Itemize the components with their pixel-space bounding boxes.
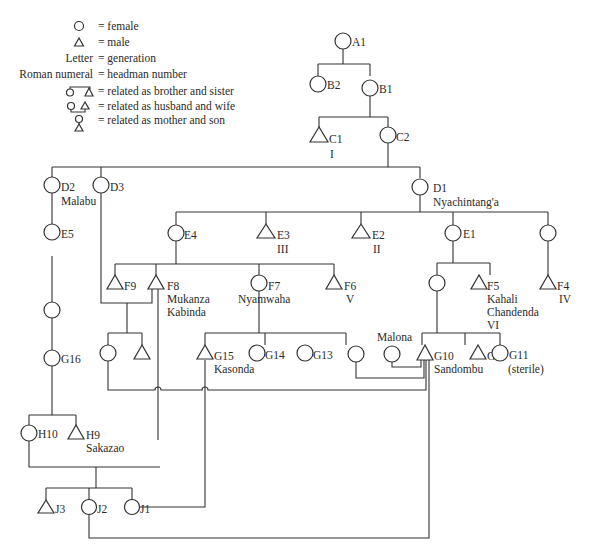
name2-f5: Chandenda — [487, 306, 539, 318]
label-e4: E4 — [184, 229, 197, 241]
person-unnamed-g-female-icon — [100, 345, 116, 361]
label-g11: G11 — [509, 349, 529, 361]
label-f8: F8 — [167, 280, 179, 292]
label-b1: B1 — [379, 83, 393, 95]
person-d1-female-icon — [412, 179, 428, 195]
person-f7-female-icon — [251, 275, 267, 291]
label-f5: F5 — [487, 280, 499, 292]
person-e3-male-icon — [257, 224, 275, 238]
person-f5-male-icon — [471, 275, 487, 289]
person-j1-female-icon — [125, 500, 140, 515]
headman-e2: II — [373, 243, 381, 255]
label-e2: E2 — [372, 229, 385, 241]
person-b1-female-icon — [362, 80, 378, 96]
person-unnamed-f-female-icon — [44, 302, 60, 318]
headman-f5: VI — [487, 319, 499, 331]
name2-f8: Kabinda — [167, 306, 206, 318]
name1-f8: Mukanza — [167, 293, 210, 305]
person-f4-male-icon — [540, 275, 556, 289]
person-a1-female-icon — [335, 33, 351, 49]
person-e2-male-icon — [352, 224, 370, 238]
person-g10-male-icon — [417, 345, 433, 360]
person-g15-male-icon — [197, 345, 213, 359]
label-f4: F4 — [557, 280, 569, 292]
name-g10: Sandombu — [434, 363, 483, 375]
label-f7: F7 — [268, 280, 280, 292]
person-j3-male-icon — [38, 500, 54, 513]
person-e4-female-icon — [168, 225, 184, 241]
person-g13-female-icon — [297, 345, 313, 361]
legend-sibling-text: = related as brother and sister — [98, 85, 234, 97]
person-d2-female-icon — [44, 177, 60, 193]
person-unnamed-g-male-icon — [134, 345, 150, 359]
headman-f4: IV — [559, 293, 572, 305]
legend-spouse-icon — [68, 102, 90, 112]
legend-spouse-text: = related as husband and wife — [98, 100, 235, 112]
label-g13: G13 — [313, 349, 333, 361]
legend-female-icon — [75, 22, 84, 31]
legend-female-text: = female — [98, 20, 139, 32]
headman-c1: I — [330, 148, 334, 160]
person-c1-male-icon — [310, 127, 328, 142]
label-g10: G10 — [434, 350, 454, 362]
person-e5-female-icon — [44, 224, 60, 240]
name-f7: Nyamwaha — [238, 293, 290, 306]
label-d3: D3 — [110, 181, 124, 193]
person-unnamed-f-e1-female-icon — [429, 275, 445, 291]
label-c1: C1 — [329, 133, 343, 145]
person-g11-female-icon — [492, 345, 508, 361]
label-f9: F9 — [124, 280, 136, 292]
person-h9-male-icon — [68, 425, 84, 439]
label-j3: J3 — [55, 503, 65, 515]
name-malona: Malona — [377, 331, 412, 343]
name-d2: Malabu — [61, 195, 96, 207]
person-unnamed-wife-female-icon — [348, 346, 364, 362]
person-b2-female-icon — [310, 76, 326, 92]
legend-sibling-icon — [67, 87, 94, 96]
legend-letter-key: Letter — [66, 52, 94, 64]
person-g14-female-icon — [249, 345, 265, 361]
name1-f5: Kahali — [487, 293, 518, 305]
person-e1-female-icon — [445, 225, 461, 241]
label-h10: H10 — [38, 428, 58, 440]
label-e3: E3 — [277, 229, 290, 241]
legend: = female = male Letter = generation Roma… — [19, 20, 235, 131]
legend-male-text: = male — [98, 36, 130, 48]
label-c2: C2 — [396, 131, 410, 143]
person-f9-male-icon — [107, 275, 123, 289]
label-d1: D1 — [433, 182, 447, 194]
legend-letter-text: = generation — [98, 52, 156, 65]
person-h10-female-icon — [21, 425, 37, 441]
name-g15: Kasonda — [214, 363, 254, 375]
headman-f6: V — [346, 293, 355, 305]
label-e5: E5 — [61, 228, 74, 240]
label-g14: G14 — [265, 349, 285, 361]
legend-roman-text: = headman number — [98, 68, 187, 80]
person-j2-female-icon — [82, 500, 97, 515]
legend-roman-key: Roman numeral — [19, 68, 93, 80]
headman-e3: III — [277, 243, 289, 255]
name-h9: Sakazao — [86, 442, 125, 454]
person-unnamed-e-female-icon — [540, 225, 556, 241]
person-d3-female-icon — [93, 177, 109, 193]
person-g9-male-icon — [470, 345, 486, 359]
person-c2-female-icon — [380, 127, 396, 143]
label-g15: G15 — [214, 350, 234, 362]
legend-mother-son-icon — [75, 116, 83, 132]
label-j1: J1 — [140, 503, 150, 515]
person-g16-female-icon — [44, 350, 60, 366]
label-g16: G16 — [61, 353, 81, 365]
genealogy-diagram: = female = male Letter = generation Roma… — [0, 0, 591, 560]
label-e1: E1 — [463, 228, 476, 240]
legend-mother-son-text: = related as mother and son — [98, 114, 225, 126]
person-f8-male-icon — [148, 275, 164, 289]
person-f6-male-icon — [326, 275, 342, 289]
label-a1: A1 — [352, 36, 366, 48]
label-j2: J2 — [97, 503, 107, 515]
label-f6: F6 — [344, 280, 356, 292]
label-h9: H9 — [86, 429, 100, 441]
name-d1: Nyachintang'a — [433, 196, 499, 209]
legend-male-icon — [75, 38, 84, 46]
label-d2: D2 — [61, 181, 75, 193]
label-b2: B2 — [327, 79, 341, 91]
